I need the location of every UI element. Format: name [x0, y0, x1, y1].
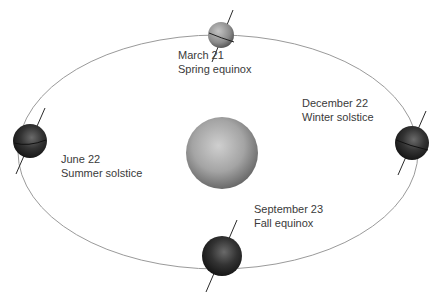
fall-event: Fall equinox [254, 216, 323, 230]
label-fall: September 23 Fall equinox [254, 202, 323, 230]
earth-winter [395, 111, 429, 175]
spring-date: March 21 [178, 48, 251, 62]
winter-date: December 22 [302, 96, 374, 110]
summer-event: Summer solstice [61, 166, 142, 180]
summer-date: June 22 [61, 152, 142, 166]
earth-summer [13, 108, 47, 174]
spring-event: Spring equinox [178, 62, 251, 76]
label-winter: December 22 Winter solstice [302, 96, 374, 124]
winter-event: Winter solstice [302, 110, 374, 124]
fall-date: September 23 [254, 202, 323, 216]
sun [186, 117, 258, 189]
earth-fall [202, 220, 242, 292]
label-summer: June 22 Summer solstice [61, 152, 142, 180]
label-spring: March 21 Spring equinox [178, 48, 251, 76]
